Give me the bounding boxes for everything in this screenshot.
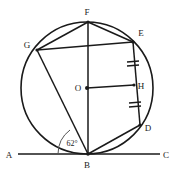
chord-FE [88,22,133,42]
tick-HD [129,102,141,107]
point-dot-F [86,20,89,23]
point-label-A: A [6,150,13,160]
point-dot-G [35,48,38,51]
point-label-C: C [163,150,169,160]
point-label-F: F [84,7,89,17]
chord-DB [88,125,140,154]
point-dot-H [132,83,135,86]
geometry-diagram-container: F E H D B G O A C 62° [0,0,178,173]
point-label-D: D [145,123,152,133]
point-dot-B [86,152,90,156]
point-dot-D [138,123,141,126]
point-dot-O [85,86,89,90]
geometry-figure: F E H D B G O A C 62° [0,0,178,173]
point-label-O: O [75,83,82,93]
point-label-E: E [138,28,144,38]
radius-OH [87,85,134,88]
chord-GE [37,42,133,50]
point-dot-E [131,40,134,43]
angle-label-62: 62° [66,139,77,148]
tick-EH [127,61,139,66]
point-label-G: G [24,40,31,50]
point-label-H: H [138,81,145,91]
point-label-B: B [84,160,90,170]
